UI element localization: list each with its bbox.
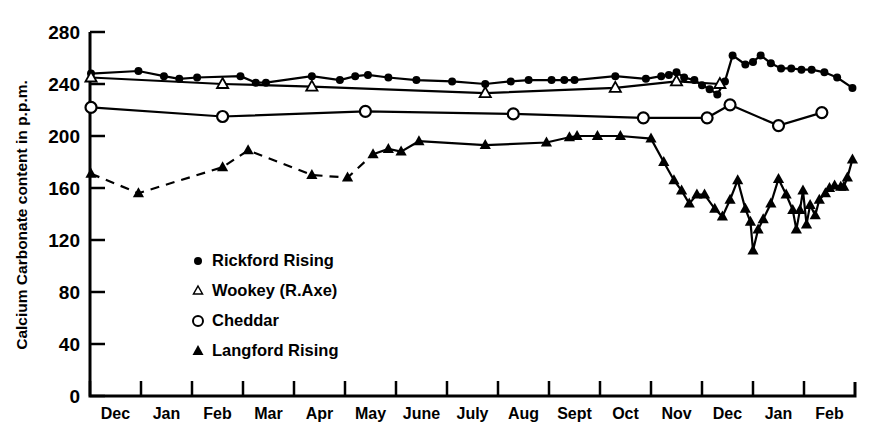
y-tick-label: 0 [69, 386, 80, 407]
data-point-marker [797, 66, 805, 74]
data-point-marker [611, 72, 619, 80]
data-point-marker [657, 72, 665, 80]
y-axis-title-group: Calcium Carbonate content in p.p.m. [13, 80, 30, 350]
legend-label: Rickford Rising [212, 251, 334, 269]
data-point-marker [816, 107, 827, 118]
data-point-marker [134, 67, 142, 75]
data-point-marker [747, 244, 758, 254]
y-tick-label: 80 [59, 282, 80, 303]
legend-marker-filled-triangle-icon [193, 345, 204, 355]
x-tick-label: Sept [557, 405, 592, 422]
series-line [91, 55, 852, 94]
x-tick-label: Dec [713, 405, 742, 422]
data-point-marker [571, 76, 579, 84]
series-line-dashed [91, 150, 373, 193]
data-point-marker [384, 74, 392, 82]
data-point-marker [810, 209, 821, 219]
data-point-marker [680, 74, 688, 82]
data-point-marker [306, 169, 317, 179]
x-tick-label: Jan [153, 405, 181, 422]
legend-marker-open-circle-icon [193, 316, 203, 326]
legend-label: Langford Rising [212, 341, 339, 359]
data-point-marker [713, 90, 721, 98]
chart-legend: Rickford RisingWookey (R.Axe)CheddarLang… [193, 251, 339, 359]
data-point-marker [360, 106, 371, 117]
x-tick-label: Nov [661, 405, 691, 422]
data-point-marker [448, 77, 456, 85]
data-point-marker [548, 76, 556, 84]
legend-item-wookey-r-axe: Wookey (R.Axe) [194, 281, 338, 299]
legend-label: Wookey (R.Axe) [212, 281, 337, 299]
data-point-marker [848, 84, 856, 92]
legend-item-rickford-rising: Rickford Rising [194, 251, 334, 269]
data-point-marker [729, 51, 737, 59]
data-point-marker [668, 174, 679, 184]
data-point-marker [741, 61, 749, 69]
x-tick-label: Jan [765, 405, 793, 422]
legend-label: Cheddar [212, 311, 280, 329]
data-point-marker [765, 198, 776, 208]
x-tick-label: Oct [612, 405, 639, 422]
legend-marker-filled-circle-icon [194, 257, 202, 265]
line-chart: Calcium Carbonate content in p.p.m. 0408… [0, 0, 879, 438]
data-point-marker [725, 99, 736, 110]
data-point-marker [706, 85, 714, 93]
data-point-marker [820, 68, 828, 76]
y-tick-label: 280 [48, 22, 80, 43]
data-point-marker [808, 66, 816, 74]
data-point-marker [658, 156, 669, 166]
series-langford-rising [85, 130, 858, 254]
series-rickford-rising [87, 51, 856, 98]
series-cheddar [86, 99, 828, 131]
data-point-marker [842, 172, 853, 182]
data-point-marker [749, 58, 757, 66]
legend-item-cheddar: Cheddar [193, 311, 280, 329]
x-axis-ticks: DecJanFebMarAprMayJuneJulyAugSeptOctNovD… [90, 381, 844, 422]
data-point-marker [508, 108, 519, 119]
data-point-marker [797, 185, 808, 195]
x-tick-label: Feb [203, 405, 232, 422]
x-tick-label: Dec [101, 405, 130, 422]
y-tick-label: 160 [48, 178, 80, 199]
data-point-marker [160, 72, 168, 80]
y-tick-label: 120 [48, 230, 80, 251]
data-point-marker [833, 74, 841, 82]
x-tick-label: July [456, 405, 488, 422]
y-axis-title: Calcium Carbonate content in p.p.m. [13, 80, 30, 350]
data-point-marker [560, 76, 568, 84]
data-point-marker [193, 74, 201, 82]
data-point-marker [847, 153, 858, 163]
data-point-marker [351, 72, 359, 80]
data-point-marker [525, 76, 533, 84]
x-tick-label: Mar [254, 405, 282, 422]
data-point-marker [805, 199, 816, 209]
data-point-marker [757, 51, 765, 59]
data-point-marker [336, 76, 344, 84]
data-point-marker [413, 135, 424, 145]
data-point-marker [745, 216, 756, 226]
data-point-marker [507, 77, 515, 85]
series-wookey-r-axe [85, 72, 725, 98]
x-tick-label: June [403, 405, 440, 422]
data-point-marker [724, 194, 735, 204]
data-point-marker [740, 203, 751, 213]
data-point-marker [787, 64, 795, 72]
data-point-marker [412, 76, 420, 84]
data-point-marker [791, 224, 802, 234]
x-tick-label: Apr [306, 405, 334, 422]
data-point-marker [773, 173, 784, 183]
y-tick-label: 200 [48, 126, 80, 147]
axis-spine [90, 32, 855, 396]
data-point-marker [217, 161, 228, 171]
y-tick-label: 240 [48, 74, 80, 95]
data-point-marker [732, 174, 743, 184]
data-point-marker [758, 213, 769, 223]
legend-marker-open-triangle-icon [194, 286, 203, 294]
axis-lines [90, 32, 855, 396]
data-point-marker [702, 112, 713, 123]
data-series-group [85, 51, 858, 254]
data-point-marker [777, 64, 785, 72]
data-point-marker [364, 71, 372, 79]
data-point-marker [781, 189, 792, 199]
data-point-marker [767, 59, 775, 67]
